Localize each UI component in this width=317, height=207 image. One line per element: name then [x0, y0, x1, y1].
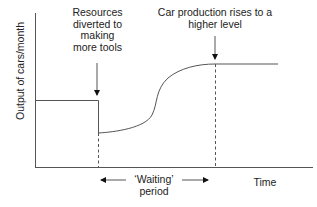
- annotation-rise: Car production rises to a higher level: [152, 7, 278, 30]
- y-axis-label: Output of cars/month: [14, 15, 26, 127]
- annotation-line: Car production rises to a: [152, 7, 278, 19]
- annotation-line: more tools: [60, 42, 135, 54]
- annotation-line: making: [60, 30, 135, 42]
- annotation-line: period: [128, 186, 180, 198]
- annotation-line: ‘Waiting’: [128, 174, 180, 186]
- annotation-line: Resources: [60, 7, 135, 19]
- production-curve: [36, 64, 279, 133]
- annotation-line: higher level: [152, 19, 278, 31]
- annotation-waiting: ‘Waiting’ period: [128, 174, 180, 197]
- x-axis-label: Time: [240, 177, 290, 189]
- annotation-resources: Resources diverted to making more tools: [60, 7, 135, 53]
